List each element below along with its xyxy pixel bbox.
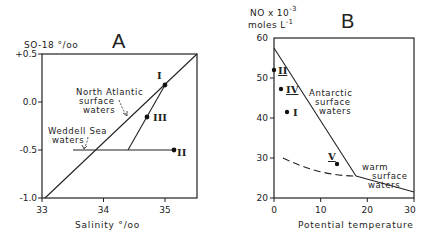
annotation-text: waters [319, 106, 351, 116]
panel-a-letter: A [112, 30, 126, 52]
data-point-IV [279, 87, 283, 91]
panel-b-ylabel-line1: NO x 10-3 [250, 5, 297, 18]
ylabel-text: moles L [248, 20, 286, 30]
point-label-IV: IV [286, 84, 299, 95]
data-point-II [272, 68, 276, 72]
xtick-label: 34 [98, 205, 110, 215]
annotation-text: waters [83, 105, 115, 115]
xtick-label: 20 [362, 205, 374, 215]
ytick-label: 20 [257, 193, 269, 203]
ylabel-exponent: -1 [286, 18, 294, 26]
xtick-label: 0 [271, 205, 277, 215]
dashed-curve [283, 158, 356, 176]
annotation-north-atlantic: North Atlantic surface waters [76, 87, 143, 116]
point-label-I: I [157, 70, 162, 81]
ylabel-text: NO x 10 [250, 8, 289, 18]
data-point-V [335, 162, 339, 166]
data-point-I [285, 110, 289, 114]
point-label-V: V [327, 151, 336, 162]
ytick-label: +0.5 [15, 49, 37, 59]
annotation-text: waters [368, 180, 400, 190]
panel-a-yticks: +0.5 0.0 -0.5 -1.0 [15, 49, 42, 203]
annotation-text: waters [52, 135, 84, 145]
point-label-I: I [293, 107, 298, 118]
ylabel-exponent: -3 [289, 5, 297, 13]
panel-b-yticks: 60 50 40 30 20 [257, 33, 274, 203]
ytick-label: -0.5 [19, 145, 37, 155]
data-point-I [163, 83, 168, 88]
ytick-label: 40 [257, 113, 269, 123]
point-label-II: II [177, 147, 187, 158]
ytick-label: 30 [257, 153, 269, 163]
xtick-label: 30 [404, 205, 416, 215]
figure: SO-18 °/oo A +0.5 0.0 -0.5 -1.0 33 34 35… [0, 0, 428, 238]
annotation-weddell-sea: Weddell Sea waters [48, 126, 107, 149]
ytick-label: 0.0 [23, 97, 38, 107]
xtick-label: 33 [36, 205, 47, 215]
panel-b-xlabel: Potential temperature [298, 220, 414, 230]
data-point-II [172, 148, 177, 153]
xtick-label: 10 [315, 205, 327, 215]
ytick-label: -1.0 [19, 193, 37, 203]
point-label-III: III [153, 112, 167, 123]
panel-a: SO-18 °/oo A +0.5 0.0 -0.5 -1.0 33 34 35… [15, 30, 197, 230]
point-label-II: II [278, 65, 288, 76]
data-point-III [145, 115, 150, 120]
panel-b-ylabel-line2: moles L-1 [248, 18, 293, 30]
panel-b-xticks: 0 10 20 30 [271, 198, 416, 215]
ytick-label: 50 [257, 73, 269, 83]
ytick-label: 60 [257, 33, 269, 43]
panel-a-xticks: 33 34 35 [36, 198, 170, 215]
xtick-label: 35 [159, 205, 170, 215]
panel-b-letter: B [341, 10, 354, 32]
panel-a-xlabel: Salinity °/oo [75, 220, 140, 230]
panel-b: NO x 10-3 moles L-1 B 60 50 40 30 20 0 1… [248, 5, 416, 230]
annotation-warm-surface: warm surface waters [362, 162, 408, 190]
